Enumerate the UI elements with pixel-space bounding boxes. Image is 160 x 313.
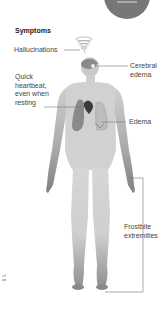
label-frostbite-extremities: Frostbite extremities [124,223,158,240]
swirl-icon [76,37,92,53]
label-quick-heartbeat: Quick heartbeat, even when resting [15,73,49,107]
badge-circle [104,0,150,19]
footnote-fragment: s if ion. [2,274,7,282]
label-hallucinations: Hallucinations [14,46,58,55]
label-edema: Edema [129,118,151,127]
label-cerebral-edema: Cerebral edema [130,62,157,79]
human-figure [46,57,135,290]
section-title: Symptoms [15,27,51,34]
